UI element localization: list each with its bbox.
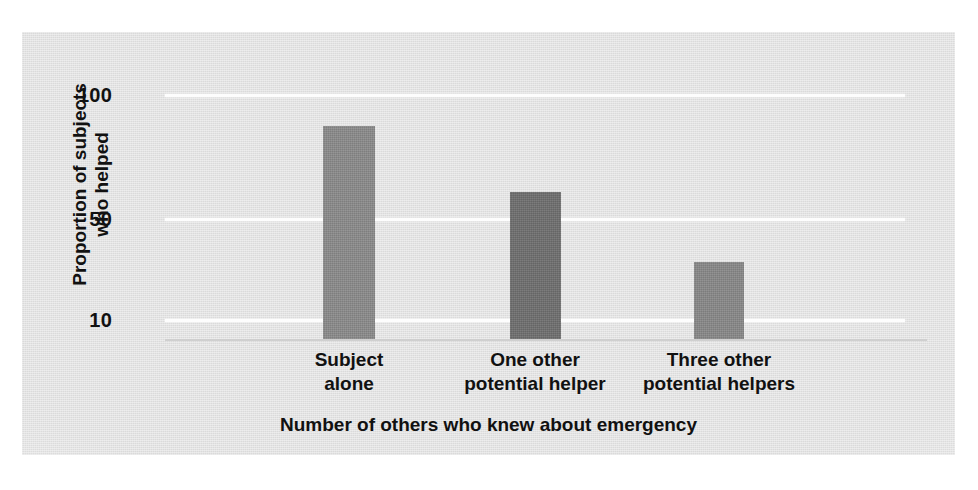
y-tick-label-10: 10 xyxy=(42,309,112,332)
bar-one-other-potential-helper xyxy=(510,192,561,339)
bar-subject-alone xyxy=(323,126,375,339)
y-axis-title: Proportion of subjects who helped xyxy=(69,79,114,289)
bar-fill-three-other-potential-helpers xyxy=(694,262,744,339)
x-axis-baseline xyxy=(165,339,927,341)
x-category-label-subject-alone: Subject alone xyxy=(259,348,439,396)
chart-panel: 100 50 10 Proportion of subjects who hel… xyxy=(22,32,955,455)
x-axis-title: Number of others who knew about emergenc… xyxy=(22,414,955,436)
bar-three-other-potential-helpers xyxy=(694,262,744,339)
plot-area: 100 50 10 Proportion of subjects who hel… xyxy=(22,32,955,455)
x-category-label-three-other-potential-helpers: Three other potential helpers xyxy=(612,348,826,396)
bar-fill-subject-alone xyxy=(323,126,375,339)
bar-fill-one-other-potential-helper xyxy=(510,192,561,339)
figure-bystander-effect-chart: 100 50 10 Proportion of subjects who hel… xyxy=(0,0,978,490)
gridline-100 xyxy=(165,94,905,97)
x-category-label-one-other-potential-helper: One other potential helper xyxy=(429,348,641,396)
